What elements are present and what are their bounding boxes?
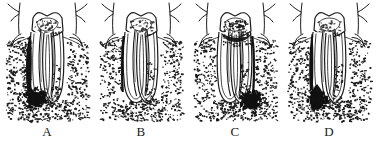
panel-label-d: D — [282, 124, 376, 140]
panel-label-c: C — [188, 124, 282, 140]
tooth-diagram-a: Wide dark periodontal pocket tracking do… — [0, 0, 94, 124]
panel-a: Wide dark periodontal pocket tracking do… — [0, 0, 94, 145]
tooth-diagram-c: Dark periapical radiolucency at distal r… — [188, 0, 282, 124]
dental-lesion-figure: Wide dark periodontal pocket tracking do… — [0, 0, 376, 145]
panel-d: Dark pocket along mesial root joining a … — [282, 0, 376, 145]
panel-b: Thin dark vertical defect along mesial r… — [94, 0, 188, 145]
panel-label-a: A — [0, 124, 94, 140]
tooth-diagram-d: Dark pocket along mesial root joining a … — [282, 0, 376, 124]
tooth-diagram-b: Thin dark vertical defect along mesial r… — [94, 0, 188, 124]
panel-label-b: B — [94, 124, 188, 140]
panel-c: Dark periapical radiolucency at distal r… — [188, 0, 282, 145]
